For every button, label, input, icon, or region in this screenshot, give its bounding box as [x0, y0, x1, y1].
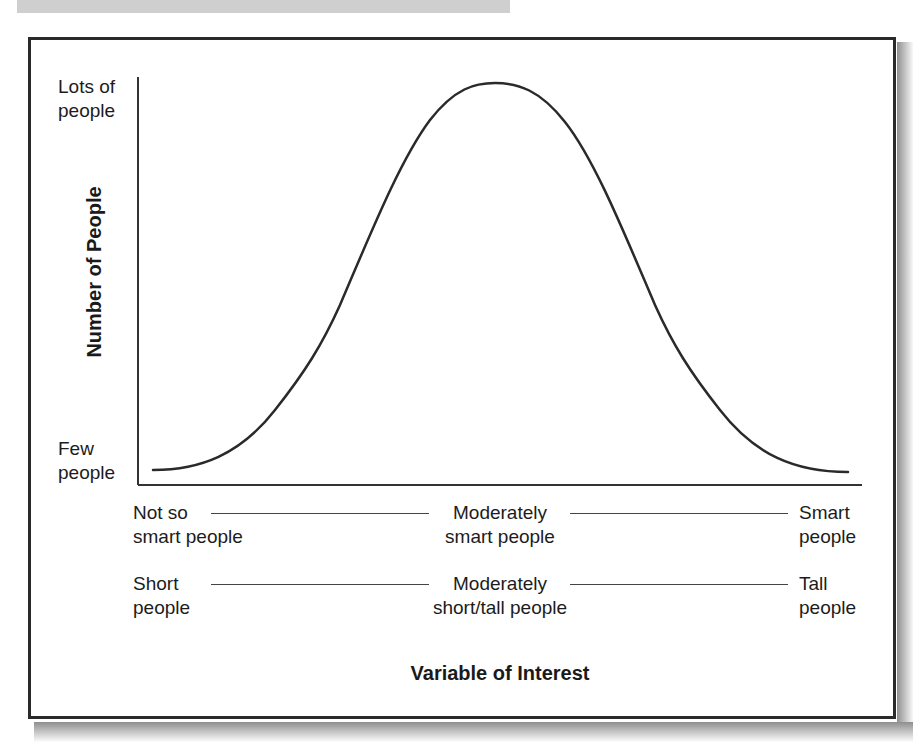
- x-row2-middle-label: Moderately short/tall people: [410, 572, 590, 620]
- bell-curve-plot: [0, 0, 921, 752]
- x-row2-middle-line2: short/tall people: [410, 596, 590, 620]
- x-axis-title: Variable of Interest: [411, 662, 590, 685]
- normal-distribution-curve: [153, 83, 848, 472]
- x-row1-middle-line1: Moderately: [417, 501, 583, 525]
- x-row2-left-line1: Short: [133, 572, 190, 596]
- y-bottom-label-line1: Few: [58, 437, 115, 461]
- x-row1-middle-line2: smart people: [417, 525, 583, 549]
- y-top-label-line1: Lots of: [58, 75, 115, 99]
- y-top-label: Lots of people: [58, 75, 115, 123]
- y-axis-title: Number of People: [83, 186, 106, 357]
- x-row1-left-connector: [211, 513, 429, 514]
- x-row2-right-line1: Tall: [799, 572, 856, 596]
- x-row1-right-line2: people: [799, 525, 856, 549]
- x-row2-left-line2: people: [133, 596, 190, 620]
- x-row1-left-label: Not so smart people: [133, 501, 243, 549]
- x-row2-right-line2: people: [799, 596, 856, 620]
- x-row2-left-label: Short people: [133, 572, 190, 620]
- y-top-label-line2: people: [58, 99, 115, 123]
- x-row1-right-line1: Smart: [799, 501, 856, 525]
- x-row1-right-connector: [570, 513, 788, 514]
- x-row2-left-connector: [211, 584, 429, 585]
- x-row2-middle-line1: Moderately: [410, 572, 590, 596]
- x-row1-left-line2: smart people: [133, 525, 243, 549]
- x-row2-right-connector: [570, 584, 788, 585]
- x-row1-middle-label: Moderately smart people: [417, 501, 583, 549]
- y-bottom-label: Few people: [58, 437, 115, 485]
- x-row2-right-label: Tall people: [799, 572, 856, 620]
- x-row1-right-label: Smart people: [799, 501, 856, 549]
- y-bottom-label-line2: people: [58, 461, 115, 485]
